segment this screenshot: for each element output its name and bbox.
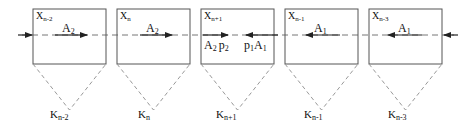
left-flow-label: A2p2 <box>204 38 229 53</box>
k-label: Kn+1 <box>216 108 236 122</box>
kernel-triangle <box>201 64 274 110</box>
k-label: Kn-1 <box>304 108 323 122</box>
kernel-triangle <box>33 64 106 110</box>
x-label: Xn-1 <box>288 10 305 23</box>
cell-n-1: Xn-1 A1 Kn-1 <box>285 9 358 122</box>
x-label: Xn <box>120 10 131 23</box>
cell-n: Xn A2 Kn <box>117 9 190 122</box>
flow-label: A1 <box>314 21 327 36</box>
right-flow-label: p1A1 <box>244 38 267 53</box>
cell-n-3: Xn-3 A1 Kn-3 <box>369 9 442 122</box>
kernel-triangle <box>285 64 358 110</box>
k-label: Kn-3 <box>388 108 407 122</box>
x-label: Xn+1 <box>204 10 223 23</box>
cell-n-2: Xn-2 A2 Kn-2 <box>33 9 106 122</box>
k-label: Kn-2 <box>50 108 69 122</box>
flow-label: A2 <box>146 21 159 36</box>
cell-sequence-diagram: Xn-2 A2 Kn-2 Xn A2 Kn Xn+1 A2p2 p1A1 Kn+… <box>0 0 475 129</box>
x-label: Xn-3 <box>372 10 389 23</box>
kernel-triangle <box>369 64 442 110</box>
k-label: Kn <box>138 108 150 122</box>
flow-label: A2 <box>62 21 75 36</box>
kernel-triangle <box>117 64 190 110</box>
flow-label: A1 <box>398 21 411 36</box>
x-label: Xn-2 <box>36 10 53 23</box>
cell-n+1: Xn+1 A2p2 p1A1 Kn+1 <box>201 9 278 122</box>
